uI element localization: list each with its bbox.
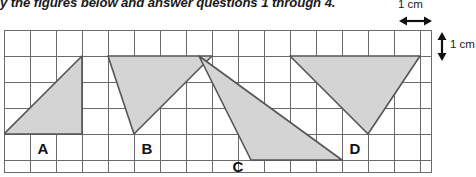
double-arrow-horizontal-icon [399, 15, 433, 27]
scale-vertical: 1 cm [436, 30, 476, 64]
figure-b-label: B [142, 140, 153, 157]
grid-canvas: A B C D [4, 30, 432, 173]
grid-figure-area: A B C D [4, 30, 432, 173]
scale-horizontal: 1 cm [398, 0, 458, 28]
figure-c-label: C [233, 158, 244, 173]
instruction-text: y the figures below and answer questions… [0, 0, 400, 15]
scale-vertical-label: 1 cm [450, 38, 475, 50]
figure-a-label: A [38, 140, 49, 157]
double-arrow-vertical-icon [436, 32, 448, 62]
figure-d-label: D [350, 140, 361, 157]
scale-horizontal-label: 1 cm [398, 0, 423, 10]
